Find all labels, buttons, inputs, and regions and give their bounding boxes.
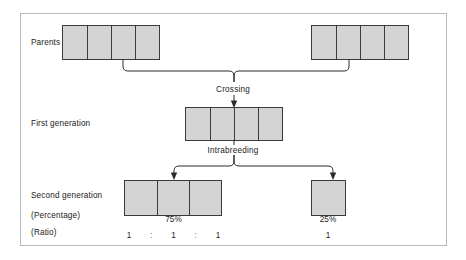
- ratio-number: 1: [213, 231, 223, 240]
- chromosome-cell: [135, 26, 159, 59]
- row-label-parents: Parents: [31, 38, 60, 47]
- chromosome-cell: [111, 26, 135, 59]
- chromosome-cell: [189, 181, 221, 215]
- chromosome-cell: [336, 26, 360, 59]
- ratio-value-dominant: 1 : 1 : 1: [124, 231, 223, 240]
- ratio-value-recessive: 1: [303, 231, 353, 240]
- process-label-intrabreeding: Intrabreeding: [0, 146, 466, 155]
- row-label-ratio: (Ratio): [31, 228, 57, 237]
- chromosome-cell: [258, 108, 282, 140]
- inheritance-diagram: Parents First generation Second generati…: [0, 0, 466, 260]
- chromosome-cell: [87, 26, 111, 59]
- chromosome-cell: [186, 108, 210, 140]
- chromosome-cell: [210, 108, 234, 140]
- second-generation-dominant-chromosome: [124, 180, 222, 216]
- chromosome-cell: [312, 26, 336, 59]
- row-label-percentage: (Percentage): [31, 211, 80, 220]
- percentage-value-dominant: 75%: [124, 215, 223, 224]
- row-label-first-generation: First generation: [31, 119, 90, 128]
- chromosome-cell: [384, 26, 408, 59]
- row-label-second-generation: Second generation: [31, 191, 102, 200]
- process-label-crossing: Crossing: [0, 85, 466, 94]
- parent-right-chromosome: [311, 25, 409, 60]
- chromosome-cell: [312, 181, 345, 215]
- ratio-separator: :: [195, 231, 197, 240]
- parent-left-chromosome: [62, 25, 160, 60]
- first-generation-chromosome: [185, 107, 283, 141]
- ratio-number: 1: [124, 231, 134, 240]
- ratio-number: 1: [169, 231, 179, 240]
- chromosome-cell: [360, 26, 384, 59]
- second-generation-recessive-chromosome: [311, 180, 346, 216]
- chromosome-cell: [63, 26, 87, 59]
- chromosome-cell: [125, 181, 157, 215]
- ratio-separator: :: [150, 231, 152, 240]
- chromosome-cell: [157, 181, 189, 215]
- chromosome-cell: [234, 108, 258, 140]
- percentage-value-recessive: 25%: [303, 215, 353, 224]
